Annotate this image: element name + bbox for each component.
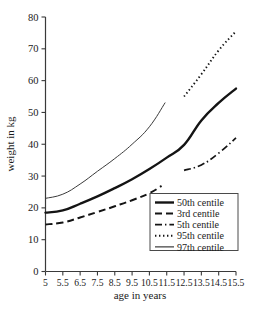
- legend-label: 5th centile: [177, 219, 219, 230]
- series-line-95th-centile: [184, 31, 236, 96]
- y-axis-tick-labels: 01020304050607080: [28, 12, 39, 278]
- x-tick-label: 5.5: [57, 277, 69, 288]
- chart-legend: 50th centile3rd centile5th centile95th c…: [150, 194, 238, 253]
- y-tick-label: 80: [28, 12, 39, 23]
- y-axis-title: weight in kg: [4, 116, 16, 171]
- x-tick-label: 11.5: [159, 277, 176, 288]
- x-tick-label: 10.5: [141, 277, 158, 288]
- legend-label: 97th centile: [177, 242, 224, 253]
- legend-label: 50th centile: [177, 197, 224, 208]
- series-line-3rd-centile: [46, 186, 162, 225]
- chart-canvas: 01020304050607080 55.56.57.58.59.510.511…: [0, 0, 254, 319]
- x-tick-label: 13.5: [193, 277, 210, 288]
- x-axis-tick-labels: 55.56.57.58.59.510.511.512.513.514.515.5: [43, 277, 244, 288]
- x-tick-label: 15.5: [228, 277, 245, 288]
- x-tick-label: 8.5: [109, 277, 121, 288]
- series-line-97th-centile: [46, 103, 166, 198]
- y-tick-label: 70: [28, 43, 39, 54]
- y-tick-label: 0: [33, 266, 38, 277]
- series-line-5th-centile: [184, 138, 236, 170]
- x-tick-label: 9.5: [126, 277, 138, 288]
- y-tick-label: 50: [28, 107, 39, 118]
- legend-label: 3rd centile: [177, 208, 220, 219]
- x-tick-label: 12.5: [176, 277, 193, 288]
- x-tick-label: 7.5: [91, 277, 103, 288]
- legend-label: 95th centile: [177, 230, 224, 241]
- x-tick-label: 6.5: [74, 277, 86, 288]
- y-tick-label: 60: [28, 75, 39, 86]
- x-axis-title: age in years: [114, 289, 167, 301]
- x-tick-label: 14.5: [210, 277, 227, 288]
- y-tick-label: 30: [28, 171, 39, 182]
- y-tick-label: 10: [28, 234, 39, 245]
- weight-for-age-centile-chart: 01020304050607080 55.56.57.58.59.510.511…: [0, 0, 254, 319]
- x-tick-label: 5: [43, 277, 48, 288]
- y-tick-label: 40: [28, 139, 39, 150]
- y-tick-label: 20: [28, 202, 39, 213]
